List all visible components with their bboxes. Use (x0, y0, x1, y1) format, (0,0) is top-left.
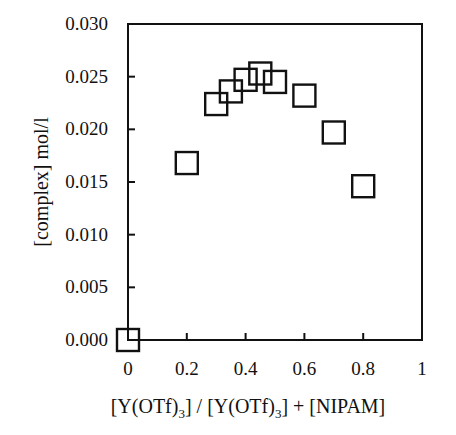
data-point-marker (352, 175, 374, 197)
scatter-chart: 0.0000.0050.0100.0150.0200.0250.030 00.2… (0, 0, 456, 435)
x-tick-label: 0.6 (293, 358, 317, 379)
x-tick-label: 0.2 (175, 358, 199, 379)
data-point-marker (249, 63, 271, 85)
x-tick-label: 1 (417, 358, 427, 379)
y-tick-label: 0.010 (65, 224, 108, 245)
y-axis-label: [complex] mol/l (30, 117, 53, 247)
x-tick-label: 0 (123, 358, 133, 379)
y-tick-label: 0.005 (65, 276, 108, 297)
data-point-marker (176, 152, 198, 174)
data-point-marker (323, 121, 345, 143)
data-point-marker (264, 71, 286, 93)
x-axis-label: [Y(OTf)3] / [Y(OTf)3] + [NIPAM] (111, 395, 386, 421)
data-point-marker (205, 93, 227, 115)
y-tick-label: 0.030 (65, 13, 108, 34)
y-tick-label: 0.015 (65, 171, 108, 192)
y-tick-label: 0.020 (65, 118, 108, 139)
data-point-marker (293, 85, 315, 107)
x-tick-label: 0.8 (351, 358, 375, 379)
y-axis: 0.0000.0050.0100.0150.0200.0250.030 (65, 13, 135, 350)
y-tick-label: 0.000 (65, 329, 108, 350)
data-points (117, 63, 374, 351)
x-tick-label: 0.4 (234, 358, 258, 379)
y-tick-label: 0.025 (65, 66, 108, 87)
